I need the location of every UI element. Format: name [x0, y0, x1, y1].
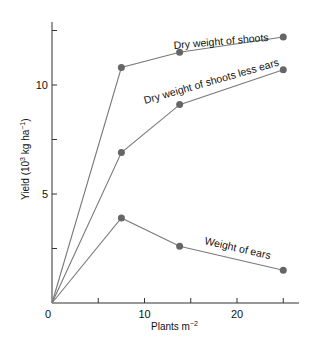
x-tick-label: 0	[45, 308, 51, 320]
annotation-dry-weight-shoots: Dry weight of shoots	[173, 31, 269, 51]
x-tick-label: 10	[138, 308, 150, 320]
data-point	[118, 64, 125, 71]
x-tick-label: 20	[231, 308, 243, 320]
annotation-weight-of-ears: Weight of ears	[204, 234, 272, 261]
data-point	[176, 101, 183, 108]
y-tick-label: 5	[42, 188, 48, 200]
series-line	[52, 218, 283, 303]
series-line	[52, 37, 283, 303]
x-axis-label: Plants m−2	[151, 320, 198, 332]
data-point	[176, 243, 183, 250]
data-point	[280, 66, 287, 73]
y-tick-label: 10	[36, 79, 48, 91]
y-axis-label: Yield (103 kg ha−1)	[19, 118, 31, 200]
x-ticks: 01020	[45, 298, 283, 320]
data-point	[280, 34, 287, 41]
y-ticks: 510	[36, 31, 57, 249]
data-point	[280, 267, 287, 274]
annotation-dry-weight-less-ears: Dry weight of shoots less ears	[142, 56, 280, 106]
chart: 510 01020 Dry weight of shoots Dry weigh…	[0, 0, 314, 349]
data-point	[118, 214, 125, 221]
data-point	[118, 149, 125, 156]
